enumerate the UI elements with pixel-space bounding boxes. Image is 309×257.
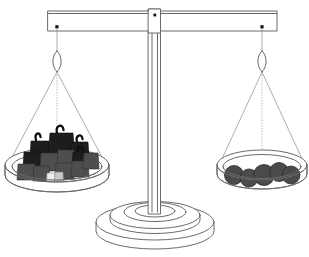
center-post-body xyxy=(149,9,161,214)
beam-center-post-overlap xyxy=(149,9,161,33)
right-hanger-loop xyxy=(258,51,266,72)
right-cord-outer-left xyxy=(221,72,262,161)
weight-block-12 xyxy=(83,153,99,169)
right-pivot-dot xyxy=(260,25,263,28)
balance-scale-drawing xyxy=(0,0,309,257)
right-cord-outer-right xyxy=(262,72,303,161)
right-suspension xyxy=(221,28,303,166)
center-post xyxy=(149,9,161,214)
left-hanger-loop xyxy=(53,51,61,72)
balance-beam xyxy=(48,9,277,33)
left-pan-contents xyxy=(17,126,99,181)
weight-handle-2 xyxy=(57,126,64,133)
center-pivot-dot xyxy=(153,14,156,17)
weight-handle-1 xyxy=(36,133,41,140)
left-pivot-dot xyxy=(55,25,58,28)
weight-handle-3 xyxy=(77,135,83,142)
balance-scale-illustration xyxy=(0,0,309,257)
